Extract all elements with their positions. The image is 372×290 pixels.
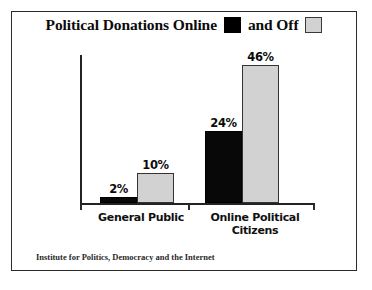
axis-tick — [188, 205, 190, 210]
bar-general-public-online[interactable] — [100, 197, 137, 203]
axis-tick — [313, 205, 315, 210]
bar-wrap-online-political-offline: 46% — [242, 65, 279, 203]
bar-general-public-offline[interactable] — [137, 173, 174, 203]
bar-wrap-general-public-offline: 10% — [137, 173, 174, 203]
grey-square-swatch-icon — [305, 17, 322, 33]
black-square-swatch-icon — [224, 17, 241, 33]
bar-value-label: 2% — [109, 182, 128, 196]
chart-title-connector: and Off — [248, 16, 299, 34]
bar-value-label: 10% — [142, 158, 168, 172]
bar-value-label: 24% — [210, 116, 236, 130]
source-attribution: Institute for Politics, Democracy and th… — [36, 252, 215, 262]
x-axis-category-label-general-public: General Public — [86, 211, 196, 224]
bar-value-label: 46% — [247, 50, 273, 64]
x-axis-line — [80, 203, 315, 205]
chart-title-row: Political Donations Online and Off — [12, 16, 356, 34]
bar-wrap-general-public-online: 2% — [100, 197, 137, 203]
chart-title-main: Political Donations Online — [46, 16, 217, 34]
bar-group-general-public: 2% 10% — [100, 173, 174, 203]
bar-wrap-online-political-online: 24% — [205, 131, 242, 203]
axis-tick — [80, 205, 82, 210]
y-axis-line — [80, 55, 82, 205]
bar-online-political-offline[interactable] — [242, 65, 279, 203]
bar-group-online-political-citizens: 24% 46% — [205, 65, 279, 203]
chart-figure-frame: Political Donations Online and Off 2% 10… — [11, 11, 357, 271]
bar-online-political-online[interactable] — [205, 131, 242, 203]
plot-area: 2% 10% 24% 46% — [80, 55, 315, 205]
x-axis-category-label-online-political-citizens: Online Political Citizens — [196, 211, 314, 237]
